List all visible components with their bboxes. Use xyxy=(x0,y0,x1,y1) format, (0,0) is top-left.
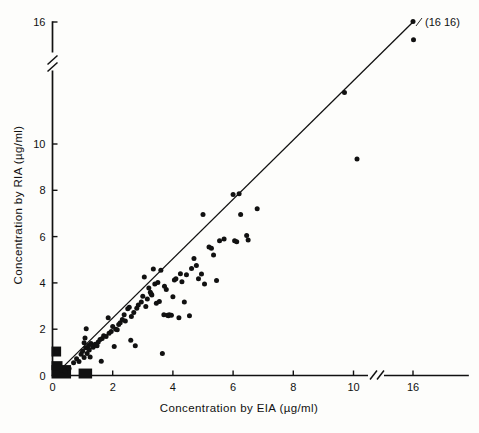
data-point xyxy=(115,327,120,332)
y-tick-label-0: 0 xyxy=(39,370,45,382)
data-point xyxy=(143,304,148,309)
scatter-plot-figure: 024681016024681016 (16 16) Concentration… xyxy=(0,0,479,433)
data-point xyxy=(55,349,60,354)
data-point xyxy=(83,335,88,340)
data-point xyxy=(237,191,242,196)
y-tick-label-6: 6 xyxy=(39,231,45,243)
x-tick-label-16: 16 xyxy=(407,381,419,393)
y-tick-label-8: 8 xyxy=(39,184,45,196)
data-point xyxy=(76,359,81,364)
data-point xyxy=(123,319,128,324)
data-point xyxy=(411,37,416,42)
data-point xyxy=(106,315,111,320)
data-point xyxy=(202,282,207,287)
data-point xyxy=(184,272,189,277)
data-point xyxy=(158,268,163,273)
y-tick-label-10: 10 xyxy=(33,138,45,150)
data-point xyxy=(196,276,201,281)
x-tick-label-4: 4 xyxy=(170,381,176,393)
data-point xyxy=(112,344,117,349)
data-point xyxy=(187,313,192,318)
data-point xyxy=(99,359,104,364)
x-tick-label-2: 2 xyxy=(110,381,116,393)
data-point xyxy=(139,299,144,304)
data-point xyxy=(164,287,169,292)
data-point xyxy=(255,206,260,211)
regression-line-group xyxy=(56,22,413,374)
data-point xyxy=(179,279,184,284)
data-point xyxy=(211,253,216,258)
data-point xyxy=(160,351,165,356)
data-point xyxy=(140,294,145,299)
data-point xyxy=(127,305,132,310)
data-point xyxy=(142,275,147,280)
x-tick-label-0: 0 xyxy=(49,381,55,393)
y-axis-title: Concentration by RIA (µg/ml) xyxy=(12,125,24,284)
plot-canvas: 024681016024681016 (16 16) Concentration… xyxy=(0,0,479,433)
data-point xyxy=(191,256,196,261)
data-point xyxy=(173,276,178,281)
data-point xyxy=(217,238,222,243)
data-point xyxy=(67,366,72,371)
regression-line xyxy=(56,22,413,374)
y-tick-label-2: 2 xyxy=(39,323,45,335)
data-point xyxy=(82,355,87,360)
data-point xyxy=(88,354,93,359)
data-point xyxy=(84,326,89,331)
annotation-leader xyxy=(416,18,422,26)
data-point xyxy=(194,263,199,268)
data-point xyxy=(133,343,138,348)
data-point xyxy=(122,312,127,317)
data-point xyxy=(149,292,154,297)
data-point xyxy=(128,338,133,343)
data-point xyxy=(201,212,206,217)
data-point xyxy=(178,271,183,276)
data-point xyxy=(244,233,249,238)
annotation-label: (16 16) xyxy=(425,16,460,28)
data-point xyxy=(82,340,87,345)
data-point xyxy=(234,239,239,244)
data-point xyxy=(246,238,251,243)
data-point xyxy=(411,19,416,24)
y-tick-label-4: 4 xyxy=(39,277,45,289)
data-point xyxy=(155,280,160,285)
dense-cluster-blob-3 xyxy=(79,369,93,379)
y-tick-label-16: 16 xyxy=(33,16,45,28)
data-point xyxy=(214,278,219,283)
data-point xyxy=(342,90,347,95)
data-point xyxy=(189,266,194,271)
data-point xyxy=(170,294,175,299)
x-tick-label-6: 6 xyxy=(230,381,236,393)
data-point xyxy=(199,272,204,277)
data-point xyxy=(71,360,76,365)
x-tick-label-8: 8 xyxy=(290,381,296,393)
x-axis-title: Concentration by EIA (µg/ml) xyxy=(160,402,318,414)
data-point xyxy=(222,236,227,241)
data-point xyxy=(176,315,181,320)
x-tick-label-10: 10 xyxy=(347,381,359,393)
data-point xyxy=(169,313,174,318)
data-point xyxy=(157,299,162,304)
data-point xyxy=(151,267,156,272)
axes-group: 024681016024681016 xyxy=(33,16,468,393)
annotation-group: (16 16) xyxy=(416,16,460,28)
data-point xyxy=(131,310,136,315)
data-point xyxy=(145,297,150,302)
data-point xyxy=(209,246,214,251)
data-point xyxy=(238,212,243,217)
data-point xyxy=(182,299,187,304)
data-point xyxy=(231,192,236,197)
data-point xyxy=(109,329,114,334)
data-point xyxy=(355,157,360,162)
